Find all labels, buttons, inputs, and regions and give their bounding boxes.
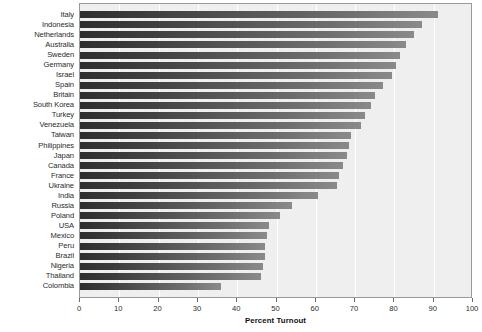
tick-mark	[393, 298, 394, 302]
category-label: Venezuela	[0, 121, 74, 129]
category-label: Indonesia	[0, 21, 74, 29]
bar	[80, 172, 339, 179]
tick-label: 90	[428, 304, 436, 313]
tick-mark	[433, 298, 434, 302]
bar	[80, 283, 221, 290]
category-label: Canada	[0, 162, 74, 170]
bar	[80, 122, 361, 129]
bar	[80, 192, 318, 199]
tick-label: 100	[466, 304, 479, 313]
category-label: Taiwan	[0, 131, 74, 139]
bar	[80, 243, 265, 250]
percent-turnout-bar-chart: ItalyIndonesiaNetherlandsAustraliaSweden…	[0, 0, 482, 332]
bar	[80, 222, 269, 229]
value-axis: 0102030405060708090100 Percent Turnout	[79, 298, 472, 332]
tick-mark	[236, 298, 237, 302]
bar	[80, 152, 347, 159]
category-label: Sweden	[0, 51, 74, 59]
bar	[80, 182, 337, 189]
bar	[80, 21, 422, 28]
category-label: Russia	[0, 202, 74, 210]
bar	[80, 62, 396, 69]
tick-label: 30	[193, 304, 201, 313]
tick-mark	[118, 298, 119, 302]
bar	[80, 82, 383, 89]
category-label: Britain	[0, 91, 74, 99]
category-label: USA	[0, 222, 74, 230]
bar	[80, 162, 343, 169]
tick-label: 10	[114, 304, 122, 313]
bar	[80, 92, 375, 99]
bar	[80, 212, 280, 219]
bar	[80, 263, 263, 270]
tick-mark	[158, 298, 159, 302]
tick-label: 20	[153, 304, 161, 313]
bar	[80, 232, 267, 239]
tick-mark	[276, 298, 277, 302]
category-label: South Korea	[0, 101, 74, 109]
tick-mark	[197, 298, 198, 302]
category-label: Turkey	[0, 111, 74, 119]
category-label: India	[0, 192, 74, 200]
tick-label: 80	[389, 304, 397, 313]
bar	[80, 142, 349, 149]
plot-area	[79, 3, 472, 298]
category-label: Italy	[0, 11, 74, 19]
category-label: Mexico	[0, 232, 74, 240]
tick-mark	[472, 298, 473, 302]
bar	[80, 273, 261, 280]
x-axis-title: Percent Turnout	[79, 316, 472, 325]
category-label: Germany	[0, 61, 74, 69]
tick-label: 50	[271, 304, 279, 313]
bars-container	[80, 4, 471, 297]
category-label: Colombia	[0, 282, 74, 290]
tick-mark	[79, 298, 80, 302]
bar	[80, 31, 414, 38]
category-label: Peru	[0, 242, 74, 250]
category-label: Japan	[0, 152, 74, 160]
category-label: Spain	[0, 81, 74, 89]
bar	[80, 72, 392, 79]
bar	[80, 112, 365, 119]
category-label: Brazil	[0, 252, 74, 260]
tick-label: 60	[311, 304, 319, 313]
bar	[80, 132, 351, 139]
category-axis-labels: ItalyIndonesiaNetherlandsAustraliaSweden…	[0, 4, 74, 290]
category-label: Ukraine	[0, 182, 74, 190]
bar	[80, 41, 406, 48]
category-label: Nigeria	[0, 262, 74, 270]
category-label: Philippines	[0, 142, 74, 150]
tick-mark	[354, 298, 355, 302]
tick-label: 70	[350, 304, 358, 313]
category-label: Australia	[0, 41, 74, 49]
category-label: Israel	[0, 71, 74, 79]
category-label: Thailand	[0, 272, 74, 280]
tick-label: 0	[77, 304, 81, 313]
bar	[80, 202, 292, 209]
tick-mark	[315, 298, 316, 302]
tick-label: 40	[232, 304, 240, 313]
bar	[80, 102, 371, 109]
category-label: Poland	[0, 212, 74, 220]
bar	[80, 11, 438, 18]
bar	[80, 253, 265, 260]
category-label: France	[0, 172, 74, 180]
category-label: Netherlands	[0, 31, 74, 39]
bar	[80, 52, 400, 59]
